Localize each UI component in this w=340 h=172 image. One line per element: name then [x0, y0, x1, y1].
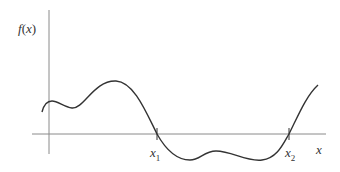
x-axis-label-text: x — [316, 142, 322, 157]
root-label-x2: x2 — [285, 146, 295, 163]
root-x1-sub: 1 — [156, 153, 161, 163]
y-label-close: ) — [32, 21, 36, 36]
function-graph: f(x) x1 x2 x — [0, 0, 340, 172]
function-curve — [42, 81, 318, 160]
root-label-x1: x1 — [150, 146, 160, 163]
y-axis-label: f(x) — [18, 22, 36, 35]
root-x2-sub: 2 — [291, 153, 296, 163]
x-axis-label: x — [316, 143, 322, 156]
